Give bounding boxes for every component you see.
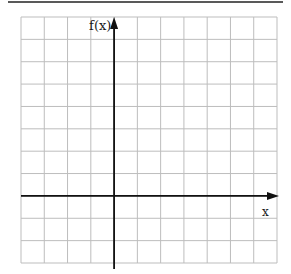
axes	[21, 17, 279, 269]
x-axis-label: x	[262, 205, 269, 219]
grid	[21, 17, 277, 263]
coordinate-grid-figure: f(x) x	[0, 0, 291, 274]
y-axis-label: f(x)	[89, 18, 111, 33]
